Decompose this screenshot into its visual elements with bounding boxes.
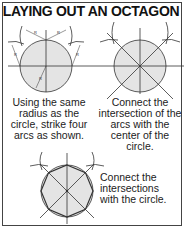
radius-label: R: [34, 30, 37, 35]
step2-caption: Connect the intersection of the arcs wit…: [96, 97, 184, 152]
step1-diagram: [8, 26, 92, 92]
radius-label: R: [76, 52, 79, 57]
step2-diagram: [92, 22, 184, 99]
radius-label: R: [14, 52, 17, 57]
radius-label: R: [57, 30, 60, 35]
step3-caption: Connect the intersections with the circl…: [100, 172, 180, 205]
step1-caption: Using the same radius as the circle, str…: [6, 97, 92, 141]
step3-diagram: [30, 152, 104, 224]
radius-label: R: [39, 76, 42, 81]
